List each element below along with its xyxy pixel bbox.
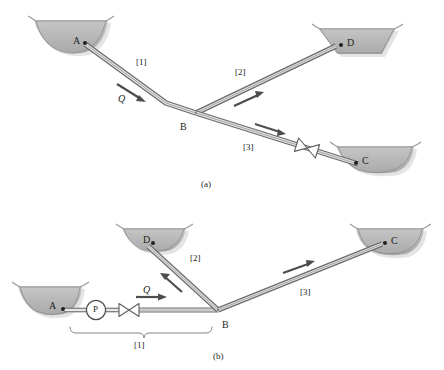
label-reservoir-a-panel-b: A <box>49 301 56 311</box>
label-pipe-1-panel-a: [1] <box>136 58 147 67</box>
node-dot-c-panel-b <box>383 241 387 245</box>
label-pump-p-panel-b: P <box>93 305 98 314</box>
caption-panel-b: (b) <box>213 352 224 361</box>
label-reservoir-d-panel-a: D <box>347 38 354 48</box>
valve-pipe-1-panel-b <box>119 304 139 317</box>
label-junction-b-panel-a: B <box>180 122 187 132</box>
node-dot-a-panel-a <box>83 41 87 45</box>
pipe-3-panel-b <box>218 244 382 310</box>
flow-arrow-pipe-1-panel-b <box>136 294 167 301</box>
label-pipe-2-panel-b: [2] <box>190 254 201 263</box>
valve-pipe-3-panel-a <box>294 138 319 158</box>
label-pipe-3-panel-b: [3] <box>300 288 311 297</box>
reservoir-a-panel-a <box>28 16 114 56</box>
label-junction-b-panel-b: B <box>222 320 229 330</box>
figure-root: A D C B [1] [2] [3] Q (a) A D C B [1] [2… <box>0 0 444 370</box>
label-pipe-2-panel-a: [2] <box>235 68 246 77</box>
pipe-2-panel-a <box>196 46 336 113</box>
node-dot-a-panel-b <box>61 307 65 311</box>
label-reservoir-c-panel-b: C <box>391 236 398 246</box>
label-flow-q-panel-a: Q <box>118 94 125 104</box>
label-flow-q-panel-b: Q <box>143 285 150 295</box>
label-pipe-1-panel-b: [1] <box>134 341 145 350</box>
caption-panel-a: (a) <box>201 180 211 189</box>
panel-a <box>28 16 421 176</box>
junction-dot-b-panel-a <box>195 112 197 114</box>
node-dot-d-panel-a <box>339 43 343 47</box>
label-reservoir-a-panel-a: A <box>73 36 80 46</box>
brace-pipe-1-panel-b <box>70 327 212 338</box>
label-reservoir-d-panel-b: D <box>143 235 150 245</box>
label-pipe-3-panel-a: [3] <box>243 143 254 152</box>
label-reservoir-c-panel-a: C <box>362 156 369 166</box>
pipe-3-panel-a <box>196 113 358 164</box>
pipe-network-diagram <box>0 0 444 370</box>
node-dot-d-panel-b <box>151 241 155 245</box>
node-dot-c-panel-a <box>354 161 358 165</box>
pipe-1-panel-a <box>85 44 196 113</box>
pipe-2-panel-b <box>148 246 218 310</box>
junction-dot-b-panel-b <box>217 309 219 311</box>
